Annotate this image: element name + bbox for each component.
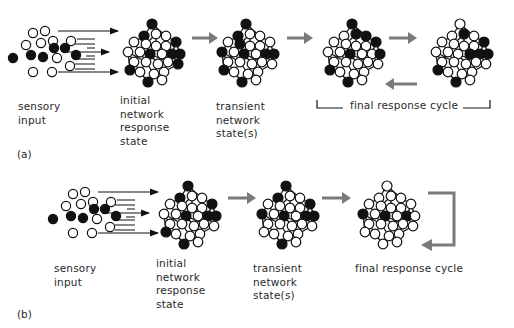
active-neuron <box>459 29 469 39</box>
sensory-inactive-dot <box>76 199 85 208</box>
inactive-neuron <box>263 199 273 209</box>
sensory-active-dot <box>48 214 57 223</box>
inactive-neuron <box>269 209 279 219</box>
active-neuron <box>281 181 291 191</box>
sensory-inactive-dot <box>80 187 89 196</box>
network-a-initial <box>123 19 185 87</box>
active-neuron <box>358 209 368 219</box>
inactive-neuron <box>307 221 317 231</box>
active-neuron <box>343 77 353 87</box>
label-sensory-input-a: sensory input <box>18 100 60 127</box>
sensory-active-dot <box>26 50 35 59</box>
inactive-neuron <box>455 19 465 29</box>
active-neuron <box>305 199 315 209</box>
sensory-active-dot <box>71 50 80 59</box>
inactive-neuron <box>199 219 209 229</box>
inactive-neuron <box>382 181 392 191</box>
sensory-inactive-dot <box>92 214 101 223</box>
inactive-neuron <box>177 219 187 229</box>
sensory-active-dot <box>49 43 58 52</box>
active-neuron <box>147 19 157 29</box>
bracket-right <box>463 100 490 108</box>
inactive-neuron <box>285 191 295 201</box>
sensory-inactive-dot <box>21 40 30 49</box>
inactive-neuron <box>245 29 255 39</box>
label-final-cycle-b: final response cycle <box>355 262 463 276</box>
active-neuron <box>237 77 247 87</box>
inactive-neuron <box>465 75 475 85</box>
inactive-neuron <box>431 47 441 57</box>
inactive-neuron <box>408 221 418 231</box>
sensory-inactive-dot <box>87 228 96 237</box>
inactive-neuron <box>469 31 479 41</box>
arrow-b-return <box>428 193 454 245</box>
label-initial-state-b: initial network response state <box>156 257 205 311</box>
inactive-neuron <box>159 209 169 219</box>
sensory-inactive-dot <box>52 53 61 62</box>
label-final-cycle-a: final response cycle <box>350 99 458 113</box>
arrow-a-2-head <box>304 32 313 44</box>
active-neuron <box>483 49 493 59</box>
active-neuron <box>219 65 229 75</box>
sensory-inactive-dot <box>65 61 74 70</box>
sensory-active-dot <box>8 53 17 62</box>
inactive-neuron <box>370 229 380 239</box>
inactive-neuron <box>295 193 305 203</box>
inactive-neuron <box>171 229 181 239</box>
inactive-neuron <box>193 237 203 247</box>
sensory-active-dot <box>66 211 75 220</box>
active-neuron <box>479 37 489 47</box>
arrow-a-1-head <box>209 32 218 44</box>
inactive-neuron <box>229 47 239 57</box>
sensory-inactive-dot <box>47 67 56 76</box>
inactive-neuron <box>257 57 267 67</box>
inactive-neuron <box>187 191 197 201</box>
sensory-inactive-dot <box>61 201 70 210</box>
inactive-neuron <box>255 31 265 41</box>
inactive-neuron <box>398 219 408 229</box>
inactive-neuron <box>376 219 386 229</box>
arrow-b-1-head <box>247 192 256 204</box>
active-neuron <box>161 227 171 237</box>
sensory-active-dot <box>78 213 87 222</box>
active-neuron <box>257 209 267 219</box>
sensory-inactive-dot <box>68 189 77 198</box>
active-neuron <box>347 19 357 29</box>
active-neuron <box>217 47 227 57</box>
inactive-neuron <box>135 47 145 57</box>
inactive-neuron <box>396 193 406 203</box>
inactive-neuron <box>165 199 175 209</box>
active-neuron <box>207 199 217 209</box>
label-transient-state-a: transient network state(s) <box>216 100 265 141</box>
network-a-transient <box>217 19 279 87</box>
active-neuron <box>211 211 221 221</box>
sensory-inactive-dot <box>68 228 77 237</box>
inactive-neuron <box>449 57 459 67</box>
inactive-neuron <box>123 47 133 57</box>
label-transient-state-b: transient network state(s) <box>253 262 302 303</box>
label-sensory-input-b: sensory input <box>54 262 96 289</box>
inactive-neuron <box>251 75 261 85</box>
network-b-initial <box>159 181 221 249</box>
active-neuron <box>125 65 135 75</box>
arrow-a-return-head <box>385 78 394 90</box>
active-neuron <box>171 37 181 47</box>
inactive-neuron <box>267 59 277 69</box>
sensory-active-dot <box>60 43 69 52</box>
inactive-neuron <box>410 211 420 221</box>
label-initial-state-a: initial network response state <box>120 94 169 148</box>
active-neuron <box>143 77 153 87</box>
inactive-neuron <box>275 219 285 229</box>
inactive-neuron <box>135 67 145 77</box>
active-neuron <box>183 181 193 191</box>
inactive-neuron <box>357 75 367 85</box>
inactive-neuron <box>341 57 351 67</box>
sensory-active-dot <box>89 204 98 213</box>
inactive-neuron <box>360 227 370 237</box>
bracket-left <box>317 100 343 108</box>
panel-tag-b: (b) <box>17 308 32 320</box>
inactive-neuron <box>335 67 345 77</box>
active-neuron <box>175 49 185 59</box>
inactive-neuron <box>223 37 233 47</box>
arrow-b-return-head <box>421 239 432 251</box>
